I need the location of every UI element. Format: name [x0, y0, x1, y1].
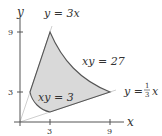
region-diagram: y x 9 3 3 9 y = 3x xy = 27 xy = 3 y = 1 …: [0, 0, 162, 136]
svg-text:1: 1: [145, 82, 149, 90]
y-tick-label-3: 3: [8, 88, 13, 97]
x-tick-label-9: 9: [107, 127, 112, 136]
svg-text:3: 3: [145, 91, 149, 99]
x-tick-label-3: 3: [47, 127, 52, 136]
label-xy-3: xy = 3: [38, 91, 74, 104]
y-tick-label-9: 9: [8, 28, 13, 37]
y-axis-label: y: [16, 5, 24, 19]
svg-text:y =: y =: [123, 85, 143, 98]
x-axis-label: x: [127, 115, 134, 129]
label-xy-27: xy = 27: [82, 55, 125, 68]
svg-text:x: x: [152, 85, 159, 98]
label-y-third-x: y = 1 3 x: [123, 82, 159, 99]
label-y-3x: y = 3x: [43, 7, 80, 20]
